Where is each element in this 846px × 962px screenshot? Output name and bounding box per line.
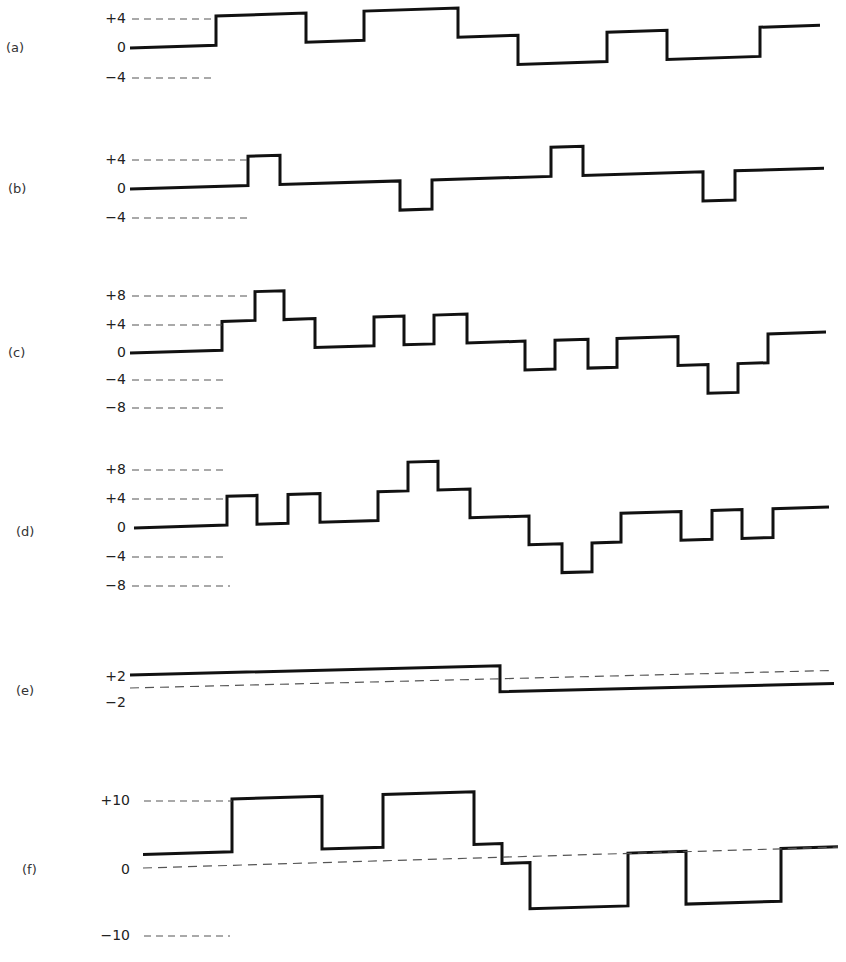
- panel-label-f: (f): [22, 862, 37, 877]
- waveform-figure: [0, 0, 846, 962]
- tick-label: +8: [66, 287, 126, 303]
- waveform-c: [130, 291, 826, 394]
- tick-label: 0: [66, 39, 126, 55]
- panel-label-e: (e): [16, 683, 34, 698]
- tick-label: −2: [66, 694, 126, 710]
- panel-label-d: (d): [16, 524, 34, 539]
- tick-label: −10: [70, 927, 130, 943]
- tick-label: +4: [66, 490, 126, 506]
- zero-dash-line: [143, 847, 838, 868]
- tick-label: +2: [66, 668, 126, 684]
- tick-label: +4: [66, 10, 126, 26]
- tick-label: −4: [66, 548, 126, 564]
- waveform-b: [130, 146, 824, 210]
- tick-label: −8: [66, 399, 126, 415]
- waveform-a: [130, 8, 820, 64]
- tick-label: +4: [66, 151, 126, 167]
- waveform-d: [134, 461, 829, 572]
- tick-label: +4: [66, 316, 126, 332]
- panel-label-a: (a): [6, 40, 24, 55]
- tick-label: +8: [66, 461, 126, 477]
- tick-label: −8: [66, 577, 126, 593]
- panel-label-c: (c): [8, 345, 25, 360]
- tick-label: 0: [70, 861, 130, 877]
- tick-label: +10: [70, 792, 130, 808]
- tick-label: 0: [66, 519, 126, 535]
- tick-label: 0: [66, 344, 126, 360]
- tick-label: −4: [66, 209, 126, 225]
- tick-label: −4: [66, 69, 126, 85]
- tick-label: −4: [66, 371, 126, 387]
- tick-label: 0: [66, 180, 126, 196]
- panel-label-b: (b): [8, 181, 26, 196]
